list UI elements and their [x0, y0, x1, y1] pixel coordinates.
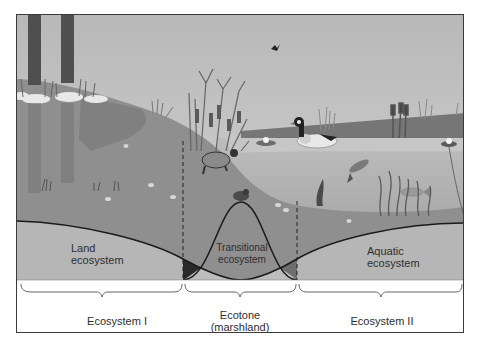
transitional-label-line2: ecosystem	[207, 254, 277, 266]
transitional-ecosystem-label: Transitional ecosystem	[207, 242, 277, 266]
ecotone-label-line2: (marshland)	[200, 321, 280, 333]
diagram-frame: Land ecosystem Transitional ecosystem Aq…	[16, 14, 464, 333]
aquatic-label-line2: ecosystem	[367, 257, 420, 269]
aquatic-label-line1: Aquatic	[367, 245, 420, 257]
aquatic-ecosystem-label: Aquatic ecosystem	[367, 245, 420, 269]
ecotone-label: Ecotone (marshland)	[200, 309, 280, 333]
cattails-far	[391, 103, 408, 144]
tree-trunk-left	[28, 15, 41, 85]
land-label-line1: Land	[71, 242, 124, 254]
land-label-line2: ecosystem	[71, 254, 124, 266]
ecotone-scene	[17, 15, 464, 333]
ecosystem-1-label: Ecosystem I	[67, 315, 167, 327]
tree-trunk-right	[61, 15, 74, 83]
ecotone-label-line1: Ecotone	[200, 309, 280, 321]
land-ecosystem-label: Land ecosystem	[71, 242, 124, 266]
transitional-label-line1: Transitional	[207, 242, 277, 254]
ecosystem-2-label: Ecosystem II	[332, 315, 432, 327]
